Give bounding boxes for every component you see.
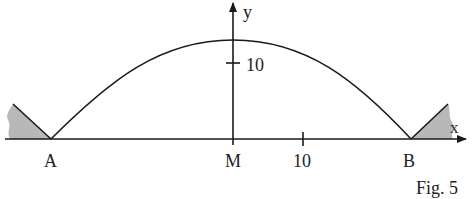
label-B: B [403, 151, 415, 171]
label-x-axis: x [450, 118, 459, 137]
label-x-tick: 10 [293, 151, 311, 171]
arch-curve [51, 40, 411, 139]
label-y-tick: 10 [246, 55, 264, 75]
arch-diagram: y 10 x A M 10 B Fig. 5 [0, 0, 475, 199]
figure-caption: Fig. 5 [416, 178, 458, 198]
label-y-axis: y [243, 2, 252, 22]
label-A: A [44, 151, 57, 171]
label-M: M [225, 151, 241, 171]
